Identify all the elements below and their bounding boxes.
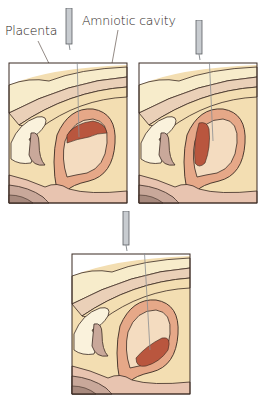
panel-2	[138, 62, 258, 204]
needle-2	[194, 20, 204, 60]
needle-3	[121, 211, 131, 251]
needle-1	[64, 8, 74, 50]
panel-3	[71, 253, 191, 395]
panel-1	[8, 62, 128, 204]
